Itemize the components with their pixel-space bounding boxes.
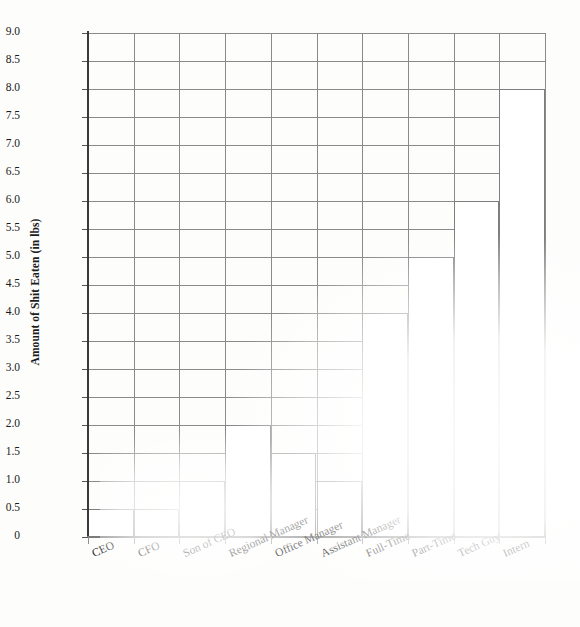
y-tick-label: 5.5 bbox=[0, 221, 20, 233]
x-tick-mark bbox=[179, 537, 180, 544]
y-tick-label: 2.5 bbox=[0, 389, 20, 401]
y-tick-label: 2.0 bbox=[0, 417, 20, 429]
y-tick-label: 8.0 bbox=[0, 81, 20, 93]
x-tick-label: CFO bbox=[136, 539, 161, 559]
x-tick-label: CEO bbox=[90, 539, 116, 559]
bar bbox=[362, 313, 408, 537]
y-tick-label: 0 bbox=[0, 529, 20, 541]
y-tick-label: 3.5 bbox=[0, 333, 20, 345]
gridline-vertical bbox=[134, 33, 135, 537]
y-tick-label: 4.0 bbox=[0, 305, 20, 317]
bar bbox=[179, 481, 225, 537]
bar bbox=[225, 425, 271, 537]
y-tick-label: 9.0 bbox=[0, 25, 20, 37]
bar bbox=[134, 509, 180, 537]
y-tick-label: 7.0 bbox=[0, 137, 20, 149]
plot-area bbox=[88, 33, 545, 537]
bar bbox=[408, 257, 454, 537]
gridline-vertical bbox=[179, 33, 180, 537]
y-tick-label: 6.5 bbox=[0, 165, 20, 177]
x-tick-mark bbox=[545, 537, 546, 544]
y-tick-label: 8.5 bbox=[0, 53, 20, 65]
y-tick-label: 6.0 bbox=[0, 193, 20, 205]
y-tick-label: 1.0 bbox=[0, 473, 20, 485]
y-tick-label: 7.5 bbox=[0, 109, 20, 121]
x-tick-mark bbox=[134, 537, 135, 544]
y-tick-label: 0.5 bbox=[0, 501, 20, 513]
y-tick-label: 4.5 bbox=[0, 277, 20, 289]
bar bbox=[88, 509, 134, 537]
x-tick-mark bbox=[88, 537, 89, 544]
gridline-vertical bbox=[317, 33, 318, 537]
bar bbox=[454, 201, 500, 537]
bar bbox=[499, 89, 545, 537]
y-tick-label: 5.0 bbox=[0, 249, 20, 261]
y-axis-line bbox=[87, 31, 89, 537]
y-tick-label: 3.0 bbox=[0, 361, 20, 373]
y-axis-title: Amount of Shit Eaten (in lbs) bbox=[29, 177, 41, 407]
x-tick-label: Intern bbox=[501, 537, 531, 559]
y-tick-label: 1.5 bbox=[0, 445, 20, 457]
gridline-vertical bbox=[545, 33, 546, 537]
